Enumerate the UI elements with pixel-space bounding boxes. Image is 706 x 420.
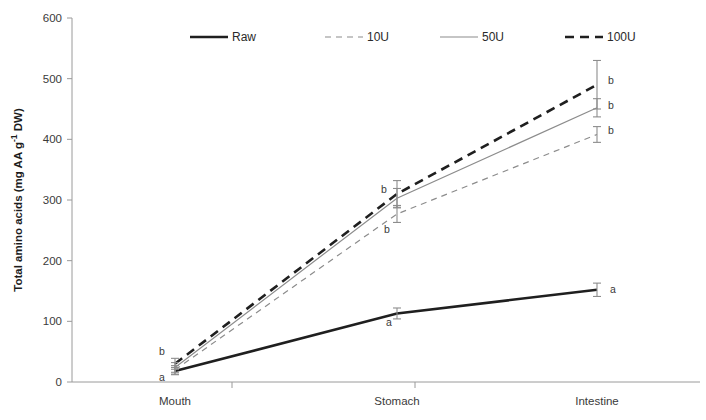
y-tick-label: 400 bbox=[43, 133, 62, 145]
series-line-raw bbox=[175, 290, 597, 371]
significance-letter: b bbox=[608, 124, 614, 136]
amino-acid-line-chart: 0100200300400500600 MouthStomachIntestin… bbox=[0, 0, 706, 420]
y-axis-title: Total amino acids (mg AA g-1 DW) bbox=[9, 108, 24, 292]
significance-letter: b bbox=[381, 183, 387, 195]
significance-letter: b bbox=[608, 74, 614, 86]
legend-label-100u: 100U bbox=[607, 30, 636, 44]
error-bar bbox=[593, 60, 601, 109]
x-category-label: Stomach bbox=[374, 395, 419, 407]
chart-container: 0100200300400500600 MouthStomachIntestin… bbox=[0, 0, 706, 420]
legend-label-raw: Raw bbox=[232, 30, 256, 44]
legend-label-10u: 10U bbox=[367, 30, 389, 44]
significance-letter: b bbox=[159, 345, 165, 357]
significance-letter: a bbox=[386, 316, 392, 328]
y-tick-label: 200 bbox=[43, 255, 62, 267]
significance-letter: a bbox=[159, 371, 165, 383]
x-category-label: Intestine bbox=[575, 395, 618, 407]
significance-letter: a bbox=[610, 283, 616, 295]
y-tick-label: 600 bbox=[43, 12, 62, 24]
significance-annotations: babbabbba bbox=[159, 74, 616, 383]
chart-legend: Raw10U50U100U bbox=[190, 30, 636, 44]
y-tick-label: 100 bbox=[43, 315, 62, 327]
x-axis: MouthStomachIntestine bbox=[72, 382, 700, 407]
error-bar bbox=[593, 127, 601, 143]
legend-label-50u: 50U bbox=[482, 30, 504, 44]
y-axis: 0100200300400500600 bbox=[43, 12, 72, 388]
y-tick-label: 300 bbox=[43, 194, 62, 206]
y-tick-label: 0 bbox=[56, 376, 62, 388]
series-line-50u bbox=[175, 108, 597, 368]
significance-letter: b bbox=[608, 99, 614, 111]
series-line-10u bbox=[175, 134, 597, 369]
y-tick-label: 500 bbox=[43, 73, 62, 85]
x-category-label: Mouth bbox=[159, 395, 191, 407]
y-axis-title-text: Total amino acids (mg AA g-1 DW) bbox=[9, 108, 24, 292]
significance-letter: b bbox=[384, 223, 390, 235]
error-bar bbox=[393, 181, 401, 208]
